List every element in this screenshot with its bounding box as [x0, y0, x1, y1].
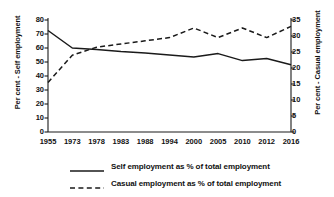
- legend-item: Self employment as % of total employment: [0, 158, 334, 175]
- legend-label: Casual employment as % of total employme…: [111, 179, 281, 188]
- chart-figure: Per cent - Self employment Per cent - Ca…: [0, 0, 334, 197]
- legend-swatch-dashed-line: [70, 179, 104, 189]
- series-lines: [48, 26, 291, 82]
- legend-label: Self employment as % of total employment: [111, 162, 270, 171]
- axis-lines: [45, 18, 295, 132]
- series-line-1: [48, 31, 291, 65]
- legend-swatch-solid-line: [70, 162, 104, 172]
- chart-legend: Self employment as % of total employment…: [0, 158, 334, 192]
- legend-item: Casual employment as % of total employme…: [0, 175, 334, 192]
